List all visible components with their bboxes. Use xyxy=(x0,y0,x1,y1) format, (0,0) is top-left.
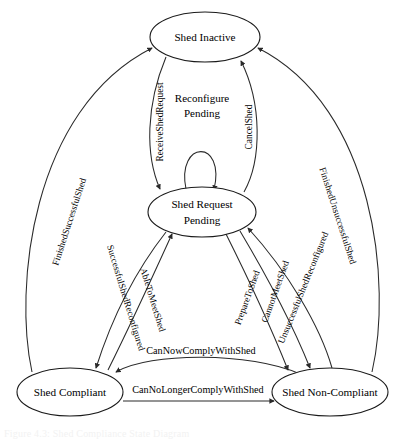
edge-label-cancel-shed: CancelShed xyxy=(244,104,254,149)
state-diagram-canvas: FinishedSuccessfulShed FinishedUnsuccess… xyxy=(0,0,402,439)
edge-label-finished-successful-shed: FinishedSuccessfulShed xyxy=(50,177,88,267)
edge-path-finished-unsuccessful-shed xyxy=(258,48,379,372)
edge-cancel-shed: CancelShed xyxy=(241,61,257,192)
edge-can-no-longer-comply-with-shed: CanNoLongerComplyWithShed xyxy=(123,384,274,401)
edge-label-unsuccessful-shed-reconfigured: UnsuccessfulShedReconfigured xyxy=(276,230,330,345)
node-shape-shed-request-pending[interactable] xyxy=(148,187,256,237)
edge-label-receive-shed-request: ReceiveShedRequest xyxy=(155,82,165,162)
edge-label-reconfigure-pending-line2: Pending xyxy=(184,107,221,119)
node-label-shed-non-compliant: Shed Non-Compliant xyxy=(282,386,378,398)
node-label-shed-inactive: Shed Inactive xyxy=(174,31,235,43)
node-label-shed-request-pending-line1: Shed Request xyxy=(171,198,233,210)
state-transition-diagram: FinishedSuccessfulShed FinishedUnsuccess… xyxy=(0,0,402,439)
edge-reconfigure-pending: Reconfigure Pending xyxy=(175,92,229,190)
edge-unsuccessful-shed-reconfigured: UnsuccessfulShedReconfigured xyxy=(248,228,332,368)
node-shed-request-pending[interactable]: Shed Request Pending xyxy=(148,187,256,237)
edge-label-can-now-comply-with-shed: CanNowComplyWithShed xyxy=(146,345,255,356)
figure-caption: Figure 4.3: Shed Compliance State Diagra… xyxy=(4,428,189,439)
edge-label-reconfigure-pending-line1: Reconfigure xyxy=(175,92,229,104)
node-shed-compliant[interactable]: Shed Compliant xyxy=(17,368,123,416)
edge-path-reconfigure-pending xyxy=(185,152,216,190)
edge-label-successful-shed-reconfigured: SuccessfulShedReconfigured xyxy=(105,244,147,352)
node-shed-non-compliant[interactable]: Shed Non-Compliant xyxy=(272,368,388,416)
node-shed-inactive[interactable]: Shed Inactive xyxy=(150,12,260,62)
edge-path-can-now-comply-with-shed xyxy=(116,357,300,374)
node-label-shed-compliant: Shed Compliant xyxy=(34,386,107,398)
edge-finished-unsuccessful-shed: FinishedUnsuccessfulShed xyxy=(258,48,379,372)
edge-receive-shed-request: ReceiveShedRequest xyxy=(150,57,166,189)
edge-label-can-no-longer-comply-with-shed: CanNoLongerComplyWithShed xyxy=(132,384,263,395)
edge-label-finished-unsuccessful-shed: FinishedUnsuccessfulShed xyxy=(317,166,358,265)
node-label-shed-request-pending-line2: Pending xyxy=(184,214,221,226)
